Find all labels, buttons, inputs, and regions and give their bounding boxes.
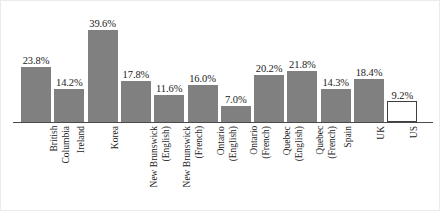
category-label-ontario-french: Ontario(French) xyxy=(221,123,251,211)
bar-value-label: 18.4% xyxy=(356,67,383,78)
category-label-korea: Korea xyxy=(88,123,118,211)
bar-rect: 20.2% xyxy=(254,75,284,122)
category-label-text: UK xyxy=(375,126,387,140)
bar-rect: 17.8% xyxy=(121,81,151,122)
bar-value-label: 16.0% xyxy=(189,73,216,84)
category-label-quebec-english: Quebec(English) xyxy=(254,123,284,211)
bar-value-label: 23.8% xyxy=(23,55,50,66)
bar-value-label: 20.2% xyxy=(256,63,283,74)
bar-rect: 7.0% xyxy=(221,106,251,122)
bar-rect: 9.2% xyxy=(387,101,417,122)
bar-value-label: 21.8% xyxy=(289,59,316,70)
bar-rect: 14.3% xyxy=(321,89,351,122)
category-label-text: Ireland xyxy=(75,126,87,153)
category-label-text: Spain xyxy=(342,126,354,148)
bar-rect: 11.6% xyxy=(154,95,184,122)
category-label-text: US xyxy=(408,126,420,138)
bar-rect: 39.6% xyxy=(88,30,118,122)
category-label-new-brunswick-french: New Brunswick(French) xyxy=(154,123,184,211)
category-label-spain: Spain xyxy=(321,123,351,211)
category-axis-labels: BritishColumbiaIrelandKoreaNew Brunswick… xyxy=(1,123,440,211)
category-label-uk: UK xyxy=(354,123,384,211)
bar-chart-figure: 23.8%14.2%39.6%17.8%11.6%16.0%7.0%20.2%2… xyxy=(0,0,440,211)
plot-area: 23.8%14.2%39.6%17.8%11.6%16.0%7.0%20.2%2… xyxy=(1,1,440,123)
bar-value-label: 39.6% xyxy=(89,18,116,29)
bar-value-label: 7.0% xyxy=(225,94,246,105)
bar-rect: 21.8% xyxy=(287,71,317,122)
bar-value-label: 17.8% xyxy=(123,69,150,80)
category-label-us: US xyxy=(387,123,417,211)
category-label-text: Korea xyxy=(109,126,121,149)
bar-rect: 14.2% xyxy=(54,89,84,122)
category-label-new-brunswick-english: New Brunswick(English) xyxy=(121,123,151,211)
bar-value-label: 9.2% xyxy=(392,90,413,101)
category-label-ireland: Ireland xyxy=(54,123,84,211)
category-label-ontario-english: Ontario(English) xyxy=(188,123,218,211)
category-label-quebec-french: Quebec(French) xyxy=(287,123,317,211)
bar-rect: 18.4% xyxy=(354,79,384,122)
bar-value-label: 11.6% xyxy=(156,83,182,94)
bar-value-label: 14.2% xyxy=(56,77,83,88)
bar-rect: 16.0% xyxy=(188,85,218,122)
bar-value-label: 14.3% xyxy=(322,77,349,88)
bar-rect: 23.8% xyxy=(21,67,51,122)
category-label-british-columbia: BritishColumbia xyxy=(21,123,51,211)
